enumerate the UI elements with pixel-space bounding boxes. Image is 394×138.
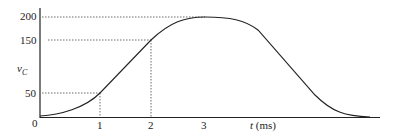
x-tick-1: 1 <box>97 120 103 131</box>
y-tick-0: 0 <box>32 118 38 129</box>
x-tick-2: 2 <box>148 120 154 131</box>
y-tick-150: 150 <box>20 35 37 46</box>
y-label-sub: C <box>22 68 27 77</box>
y-tick-50: 50 <box>25 88 36 99</box>
x-label-var: t <box>250 119 253 131</box>
x-tick-3: 3 <box>201 120 207 131</box>
chart-plot <box>0 0 394 138</box>
y-axis-label: vC <box>17 63 27 77</box>
x-label-unit: (ms) <box>256 119 276 131</box>
y-tick-200: 200 <box>20 11 37 22</box>
x-axis-label: t (ms) <box>250 120 276 131</box>
vc-curve <box>40 17 370 117</box>
reference-lines <box>42 17 205 117</box>
